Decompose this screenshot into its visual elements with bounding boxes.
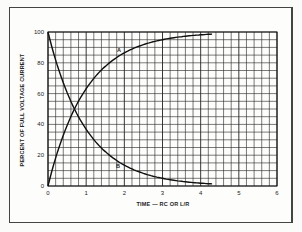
x-tick-label: 5 (237, 190, 241, 196)
x-axis-label: TIME — RC OR L/R (136, 201, 189, 207)
y-tick-label: 20 (37, 152, 44, 158)
rc-time-constant-chart: 0123456020406080100 TIME — RC OR L/R PER… (0, 0, 302, 232)
y-tick-label: 40 (37, 121, 44, 127)
y-tick-label: 80 (37, 60, 44, 66)
y-axis-label: PERCENT OF FULL VOLTAGE CURRENT (19, 53, 25, 166)
y-tick-label: 100 (34, 29, 45, 35)
y-tick-label: 0 (41, 183, 45, 189)
x-tick-label: 2 (123, 190, 127, 196)
x-tick-label: 4 (199, 190, 203, 196)
curve-b (48, 32, 212, 184)
curve-a-label: A (117, 47, 121, 53)
x-tick-label: 0 (46, 190, 50, 196)
curve-a (48, 34, 212, 186)
x-tick-label: 1 (84, 190, 88, 196)
x-tick-label: 3 (161, 190, 165, 196)
grid (48, 32, 277, 186)
y-tick-label: 60 (37, 91, 44, 97)
x-tick-label: 6 (275, 190, 279, 196)
curve-b-label: B (116, 163, 120, 169)
